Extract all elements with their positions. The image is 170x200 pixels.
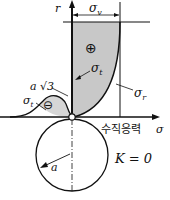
sigma-axis-arrow-icon bbox=[152, 114, 160, 120]
sigma-t-left-label: σt bbox=[23, 94, 34, 109]
minus-sign: ⊖ bbox=[43, 98, 53, 112]
a-sqrt3-label: a √3 bbox=[30, 80, 54, 93]
a-sqrt3-leader bbox=[52, 88, 68, 96]
sigma-axis-korean-label: 수직응력 bbox=[101, 123, 141, 136]
r-axis-label: r bbox=[55, 2, 61, 15]
arrowhead-left-icon bbox=[73, 13, 78, 17]
sigma-v-label: σv bbox=[89, 1, 102, 17]
sigma-axis-label: σ bbox=[156, 123, 164, 136]
k-label: K = 0 bbox=[114, 151, 152, 166]
origin-point bbox=[69, 114, 75, 120]
arrowhead-right-icon bbox=[114, 13, 119, 17]
radius-arrowhead-icon bbox=[40, 162, 48, 168]
radius-label: a bbox=[51, 161, 58, 174]
plus-sign: ⊕ bbox=[85, 40, 97, 56]
r-axis-arrow-icon bbox=[69, 0, 75, 8]
sigma-r-label: σr bbox=[134, 86, 147, 102]
stress-diagram: r σv ⊕ σt σr a √3 σt ⊖ 수직응력 σ a K = 0 bbox=[0, 0, 170, 200]
sigma-r-leader bbox=[116, 84, 133, 90]
